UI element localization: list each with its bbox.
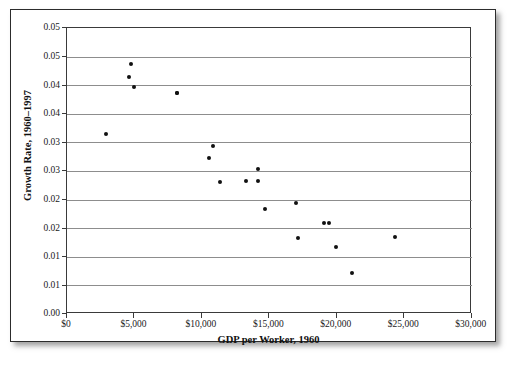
y-tick-mark xyxy=(62,56,66,57)
x-tick-label: $30,000 xyxy=(436,319,506,330)
figure-root: 0.050.050.040.040.030.030.020.020.010.01… xyxy=(0,0,513,365)
x-tick-mark xyxy=(336,313,337,318)
data-point xyxy=(296,236,300,240)
x-tick-mark xyxy=(66,313,67,318)
y-tick-label: 0.05 xyxy=(18,22,60,32)
data-point xyxy=(327,221,331,225)
x-tick-mark xyxy=(403,313,404,318)
y-tick-mark xyxy=(62,170,66,171)
gridline-horizontal xyxy=(67,228,472,229)
y-tick-mark xyxy=(62,228,66,229)
x-tick-label: $0 xyxy=(31,319,101,330)
y-tick-mark xyxy=(62,285,66,286)
data-point xyxy=(175,91,179,95)
x-tick-mark xyxy=(471,313,472,318)
plot-area xyxy=(66,27,471,313)
y-tick-mark xyxy=(62,27,66,28)
y-tick-label: 0.01 xyxy=(18,251,60,261)
x-tick-label: $25,000 xyxy=(368,319,438,330)
gridline-horizontal xyxy=(67,142,472,143)
y-tick-mark xyxy=(62,113,66,114)
y-tick-label: 0.01 xyxy=(18,280,60,290)
y-tick-label: 0.00 xyxy=(18,308,60,318)
x-tick-label: $5,000 xyxy=(98,319,168,330)
data-point xyxy=(263,207,267,211)
scatter-chart: 0.050.050.040.040.030.030.020.020.010.01… xyxy=(0,0,513,365)
x-tick-mark xyxy=(268,313,269,318)
gridline-horizontal xyxy=(67,257,472,258)
x-axis-title: GDP per Worker, 1960 xyxy=(66,334,471,345)
x-tick-label: $20,000 xyxy=(301,319,371,330)
gridline-horizontal xyxy=(67,171,472,172)
data-point xyxy=(334,245,338,249)
y-tick-mark xyxy=(62,142,66,143)
x-tick-mark xyxy=(133,313,134,318)
gridline-horizontal xyxy=(67,57,472,58)
y-tick-mark xyxy=(62,85,66,86)
y-axis-title: Growth Rate, 1960–1997 xyxy=(22,56,33,236)
data-point xyxy=(256,179,260,183)
data-point xyxy=(256,167,260,171)
y-tick-mark xyxy=(62,199,66,200)
data-point xyxy=(393,235,397,239)
gridline-horizontal xyxy=(67,285,472,286)
gridline-horizontal xyxy=(67,200,472,201)
x-tick-mark xyxy=(201,313,202,318)
gridline-horizontal xyxy=(67,114,472,115)
x-tick-label: $15,000 xyxy=(233,319,303,330)
y-tick-mark xyxy=(62,256,66,257)
gridline-horizontal xyxy=(67,85,472,86)
x-tick-label: $10,000 xyxy=(166,319,236,330)
